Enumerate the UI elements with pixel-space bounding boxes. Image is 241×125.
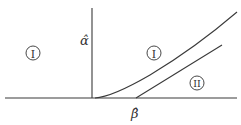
beta-hat-label: β̂ [130,106,139,121]
region-label-lower-right: II [190,76,204,90]
alpha-hat-label: α̂ [80,33,89,48]
tangent-line [136,45,222,98]
boundary-curve [95,12,237,98]
region-label-left-text: I [31,48,35,61]
region-label-upper-text: I [152,48,156,61]
region-label-upper: I [147,46,161,61]
diagram-canvas: α̂ β̂ I I II [0,0,241,125]
region-label-lower-right-text: II [193,78,201,89]
region-label-left: I [26,46,40,61]
